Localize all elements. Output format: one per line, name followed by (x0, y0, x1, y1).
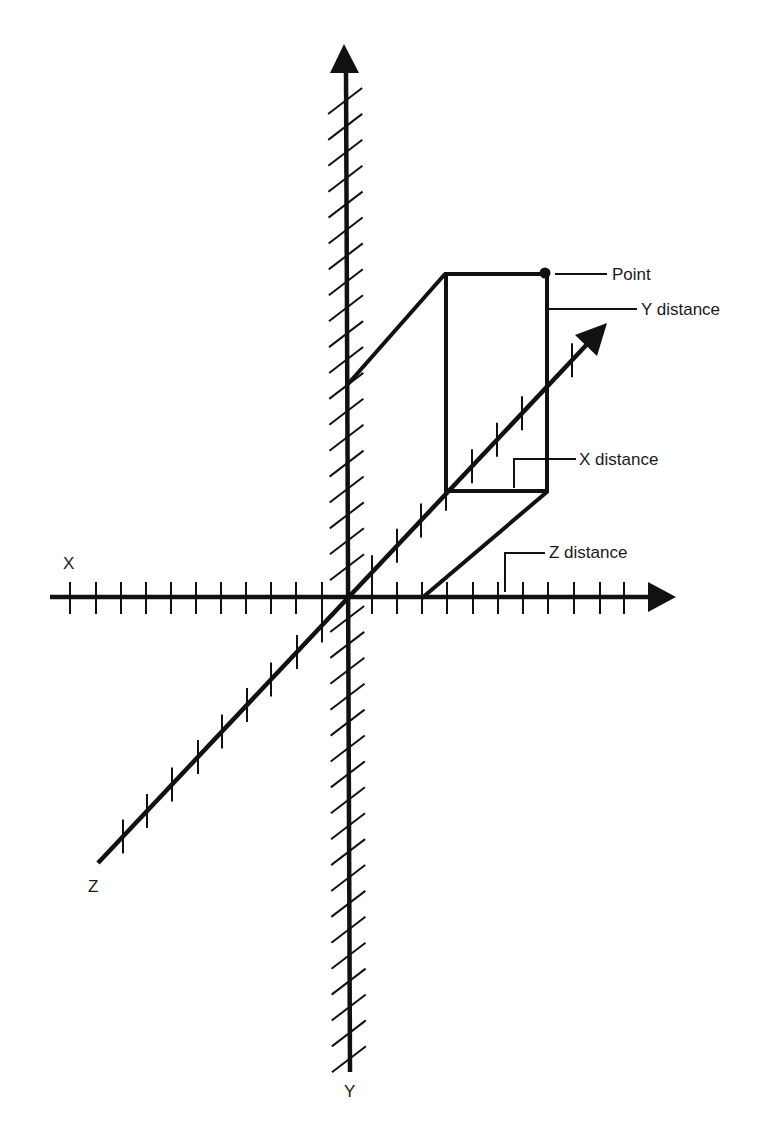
coordinate-diagram: Point Y distance X distance Z distance X… (0, 0, 776, 1140)
x-axis-label: X (63, 554, 74, 573)
z-distance-label: Z distance (549, 543, 627, 562)
x-axis (50, 582, 676, 614)
z-distance-leader (505, 553, 545, 592)
y-axis-arrowhead-icon (330, 44, 359, 73)
y-axis-label: Y (344, 1082, 355, 1101)
point-label: Point (612, 265, 651, 284)
z-axis (98, 323, 607, 863)
z-axis-label: Z (88, 877, 98, 896)
point-marker (540, 268, 551, 279)
y-distance-label: Y distance (641, 300, 720, 319)
projection-box (348, 274, 549, 598)
x-distance-label: X distance (579, 450, 658, 469)
x-axis-arrowhead-icon (648, 582, 676, 612)
y-axis (328, 44, 366, 1072)
